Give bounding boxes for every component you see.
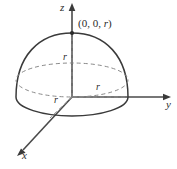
- apex-point-marker: [70, 31, 74, 35]
- radius-x-axis-label: r: [54, 95, 58, 105]
- x-axis-label: x: [22, 150, 27, 161]
- apex-point-open: (0, 0,: [78, 17, 104, 29]
- hemisphere-figure: z y x r r r (0, 0, r): [0, 0, 177, 169]
- apex-point-close: ): [108, 17, 112, 29]
- radius-guides-group: [50, 31, 128, 118]
- z-axis-arrowhead: [69, 3, 76, 11]
- radius-vertical-label: r: [63, 52, 67, 62]
- x-axis-line: [23, 97, 72, 150]
- z-axis-label: z: [60, 2, 64, 13]
- radius-horizontal-label: r: [96, 82, 100, 92]
- y-axis-label: y: [166, 99, 171, 110]
- apex-point-label: (0, 0, r): [78, 18, 112, 29]
